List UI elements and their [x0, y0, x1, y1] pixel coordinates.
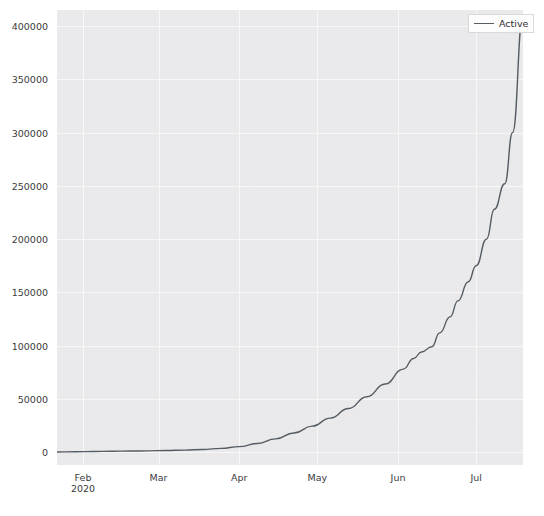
x-tick-month: Jun [391, 472, 406, 483]
x-tick-label-may: May [308, 472, 328, 483]
x-tick-label-mar: Mar [150, 472, 168, 483]
x-tick-month: Apr [231, 472, 247, 483]
x-tick-year: 2020 [71, 483, 95, 494]
legend-label-active: Active [499, 18, 528, 29]
chart-legend: Active [468, 14, 534, 33]
x-tick-month: May [308, 472, 328, 483]
x-tick-label-feb: Feb2020 [71, 472, 95, 494]
x-axis-tick-labels: Feb2020MarAprMayJunJul [0, 0, 544, 516]
x-tick-label-apr: Apr [231, 472, 247, 483]
legend-line-swatch-active [474, 23, 494, 24]
x-tick-label-jun: Jun [391, 472, 406, 483]
chart-figure: 0500001000001500002000002500003000003500… [0, 0, 544, 516]
x-tick-month: Mar [150, 472, 168, 483]
x-tick-label-jul: Jul [470, 472, 481, 483]
x-tick-month: Jul [470, 472, 481, 483]
x-tick-month: Feb [75, 472, 92, 483]
